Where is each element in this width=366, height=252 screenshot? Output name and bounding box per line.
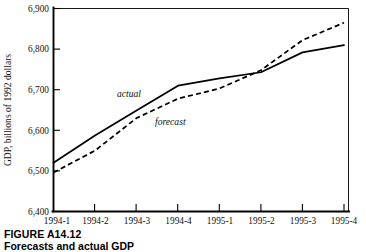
y-tick-label-6500: 6,500 [28,166,49,176]
x-tick-label-1995-1: 1995-1 [207,216,234,226]
y-tick-label-6900: 6,900 [28,4,49,14]
figure-caption-title: FIGURE A14.12 [4,229,364,240]
series-line-actual [54,45,345,163]
x-tick-label-1994-4: 1994-4 [165,216,192,226]
x-tick-label-1995-4: 1995-4 [331,216,358,226]
x-tick-label-1994-1: 1994-1 [44,216,71,226]
y-tick-label-6600: 6,600 [28,126,49,136]
x-tick-label-1994-3: 1994-3 [124,216,151,226]
x-tick-label-1995-3: 1995-3 [290,216,317,226]
annotation-actual: actual [117,88,141,99]
y-axis-tick-labels: 6,900 6,800 6,700 6,600 6,500 6,400 [28,4,49,217]
annotation-forecast: forecast [155,116,186,127]
figure-caption-subtitle: Forecasts and actual GDP [4,241,364,252]
chart-plot-area: 6,900 6,800 6,700 6,600 6,500 6,400 1994… [0,0,366,228]
y-tick-label-6700: 6,700 [28,85,49,95]
y-axis-title: GDP, billions of 1992 dollars [2,54,13,166]
x-tick-label-1995-2: 1995-2 [248,216,275,226]
x-axis-ticks [95,204,344,212]
x-axis-tick-labels: 1994-1 1994-2 1994-3 1994-4 1995-1 1995-… [44,216,358,226]
series-line-forecast [54,23,345,173]
figure-caption: FIGURE A14.12 Forecasts and actual GDP [4,229,364,252]
x-tick-label-1994-2: 1994-2 [82,216,109,226]
gdp-forecast-line-chart: 6,900 6,800 6,700 6,600 6,500 6,400 1994… [0,0,366,228]
y-tick-label-6800: 6,800 [28,44,49,54]
y-axis-ticks [54,9,61,212]
